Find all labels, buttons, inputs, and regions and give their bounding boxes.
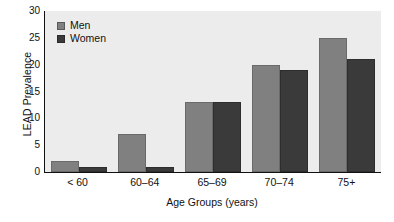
x-tick-label: 75+: [337, 176, 355, 188]
y-tick-label: 0: [18, 167, 40, 177]
legend-item-men: Men: [57, 19, 106, 32]
bar-men-2: [185, 102, 213, 172]
bar-men-3: [252, 65, 280, 172]
x-axis-tick-labels: < 6060–6465–6970–7475+: [44, 176, 380, 190]
legend-swatch-men-icon: [57, 22, 65, 30]
bar-women-2: [213, 102, 241, 172]
x-tick-label: 70–74: [265, 176, 294, 188]
bar-women-0: [79, 167, 107, 172]
y-axis-tick-labels: 051015202530: [18, 11, 40, 172]
plot-area: Men Women: [44, 11, 381, 173]
legend-item-women: Women: [57, 32, 106, 45]
bar-group: [118, 11, 174, 172]
bar-group: [252, 11, 308, 172]
legend: Men Women: [57, 19, 106, 45]
bar-group: [319, 11, 375, 172]
bar-women-1: [146, 167, 174, 172]
bar-men-0: [51, 161, 79, 172]
legend-label-women: Women: [70, 33, 106, 44]
y-tick-label: 25: [18, 33, 40, 43]
bar-men-1: [118, 134, 146, 172]
bar-group: [185, 11, 241, 172]
x-tick-label: 60–64: [130, 176, 159, 188]
y-tick-label: 15: [18, 87, 40, 97]
y-tick-label: 30: [18, 6, 40, 16]
x-tick-label: < 60: [67, 176, 88, 188]
y-tick-label: 20: [18, 60, 40, 70]
y-tick-label: 5: [18, 140, 40, 150]
bar-women-3: [280, 70, 308, 172]
bar-women-4: [347, 59, 375, 172]
y-tick-label: 10: [18, 113, 40, 123]
legend-swatch-women-icon: [57, 35, 65, 43]
x-tick-label: 65–69: [197, 176, 226, 188]
chart-figure: LEAD Prevalence 051015202530 Men Women <…: [0, 0, 394, 222]
legend-label-men: Men: [70, 20, 90, 31]
x-axis-title: Age Groups (years): [44, 196, 380, 208]
bar-men-4: [319, 38, 347, 172]
